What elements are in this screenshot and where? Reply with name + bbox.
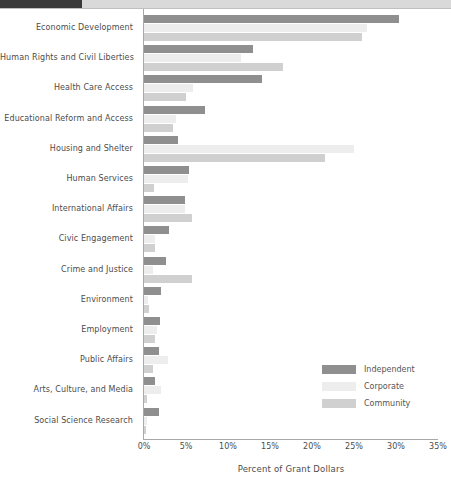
bar bbox=[144, 24, 367, 32]
x-tick-label: 20% bbox=[292, 442, 332, 451]
x-tick-label: 0% bbox=[124, 442, 164, 451]
bar bbox=[144, 75, 262, 83]
bar bbox=[144, 145, 354, 153]
category-label: Environment bbox=[0, 295, 133, 305]
legend-swatch bbox=[322, 399, 356, 408]
legend-label: Corporate bbox=[364, 380, 404, 393]
legend-swatch bbox=[322, 365, 356, 374]
x-tick-label: 35% bbox=[418, 442, 451, 451]
bar bbox=[144, 205, 185, 213]
bar bbox=[144, 347, 159, 355]
category-label: Social Science Research bbox=[0, 416, 133, 426]
bar bbox=[144, 136, 178, 144]
bar bbox=[144, 244, 155, 252]
category-label: Human Services bbox=[0, 174, 133, 184]
legend-item: Community bbox=[322, 397, 442, 414]
bar bbox=[144, 214, 192, 222]
header-light-block bbox=[82, 0, 451, 8]
category-label: Educational Reform and Access bbox=[0, 114, 133, 124]
bar bbox=[144, 106, 205, 114]
bar bbox=[144, 166, 189, 174]
bar bbox=[144, 54, 241, 62]
bar bbox=[144, 395, 147, 403]
bar bbox=[144, 33, 362, 41]
plot-area: Economic DevelopmentHuman Rights and Civ… bbox=[0, 9, 451, 449]
category-label: Human Rights and Civil Liberties bbox=[0, 53, 133, 63]
category-label: Crime and Justice bbox=[0, 265, 133, 275]
bar bbox=[144, 93, 186, 101]
bar bbox=[144, 124, 173, 132]
x-tick-label: 10% bbox=[208, 442, 248, 451]
x-axis-tick-labels: 0%5%10%15%20%25%30%35% bbox=[0, 442, 451, 456]
bar bbox=[144, 257, 166, 265]
x-tick-label: 5% bbox=[166, 442, 206, 451]
bar bbox=[144, 154, 325, 162]
bar bbox=[144, 296, 148, 304]
bar bbox=[144, 287, 161, 295]
bar bbox=[144, 184, 154, 192]
bar bbox=[144, 417, 147, 425]
category-label: International Affairs bbox=[0, 204, 133, 214]
bar bbox=[144, 335, 155, 343]
bar bbox=[144, 305, 149, 313]
bar bbox=[144, 266, 153, 274]
bar bbox=[144, 175, 188, 183]
bar bbox=[144, 15, 399, 23]
bar bbox=[144, 377, 155, 385]
legend-label: Community bbox=[364, 397, 410, 410]
category-axis-labels: Economic DevelopmentHuman Rights and Civ… bbox=[0, 9, 139, 440]
bar bbox=[144, 386, 161, 394]
header-dark-block bbox=[0, 0, 82, 8]
bar bbox=[144, 63, 283, 71]
bar bbox=[144, 326, 157, 334]
x-tick-label: 25% bbox=[334, 442, 374, 451]
bar bbox=[144, 275, 192, 283]
category-label: Health Care Access bbox=[0, 83, 133, 93]
legend-item: Corporate bbox=[322, 380, 442, 397]
bar bbox=[144, 317, 160, 325]
bar bbox=[144, 356, 168, 364]
x-tick-label: 30% bbox=[376, 442, 416, 451]
bar bbox=[144, 45, 253, 53]
legend-item: Independent bbox=[322, 363, 442, 380]
chart-page: Economic DevelopmentHuman Rights and Civ… bbox=[0, 0, 451, 484]
bar bbox=[144, 84, 193, 92]
bar bbox=[144, 365, 153, 373]
header-strip bbox=[0, 0, 451, 9]
category-label: Economic Development bbox=[0, 23, 133, 33]
category-label: Housing and Shelter bbox=[0, 144, 133, 154]
category-label: Civic Engagement bbox=[0, 234, 133, 244]
x-axis-title: Percent of Grant Dollars bbox=[143, 464, 439, 474]
legend-label: Independent bbox=[364, 363, 415, 376]
category-label: Arts, Culture, and Media bbox=[0, 385, 133, 395]
chart-legend: IndependentCorporateCommunity bbox=[322, 363, 442, 414]
bar bbox=[144, 226, 169, 234]
bar bbox=[144, 196, 185, 204]
category-label: Public Affairs bbox=[0, 355, 133, 365]
legend-swatch bbox=[322, 382, 356, 391]
category-label: Employment bbox=[0, 325, 133, 335]
bar bbox=[144, 408, 159, 416]
bar bbox=[144, 115, 176, 123]
bar bbox=[144, 426, 146, 434]
bar bbox=[144, 235, 155, 243]
x-tick-label: 15% bbox=[250, 442, 290, 451]
